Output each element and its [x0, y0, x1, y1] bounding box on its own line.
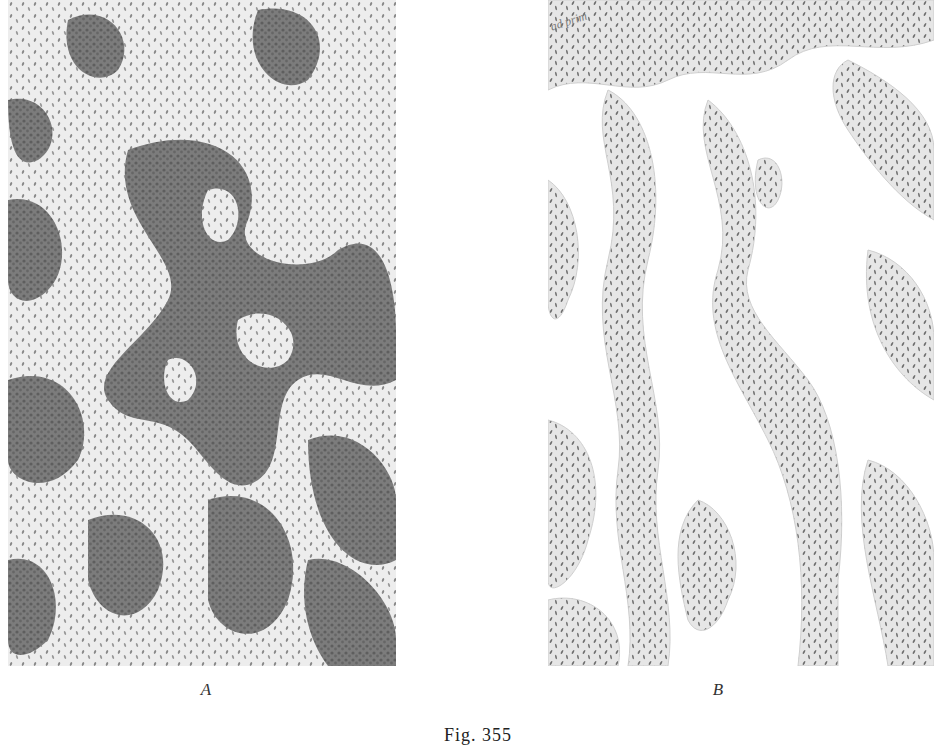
panel-a-label: A [201, 680, 211, 700]
histology-illustration-a [8, 0, 396, 666]
panel-b-label: B [713, 680, 723, 700]
panel-b-image [548, 0, 934, 666]
histology-illustration-b [548, 0, 934, 666]
figure-caption: Fig. 355 [444, 725, 512, 746]
panel-a-image [8, 0, 396, 666]
